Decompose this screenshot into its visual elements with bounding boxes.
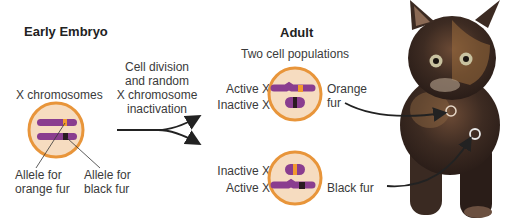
embryo-cell [29, 103, 100, 168]
diagram-graphics [0, 0, 511, 223]
chromosome-black [37, 133, 77, 140]
tortoiseshell-cat-image [400, 0, 500, 218]
chromosome-orange [37, 119, 77, 126]
adult-cell-top [269, 68, 321, 120]
branching-arrow [117, 117, 198, 143]
black-allele-icon [63, 133, 68, 140]
adult-cell-bottom [269, 152, 321, 204]
